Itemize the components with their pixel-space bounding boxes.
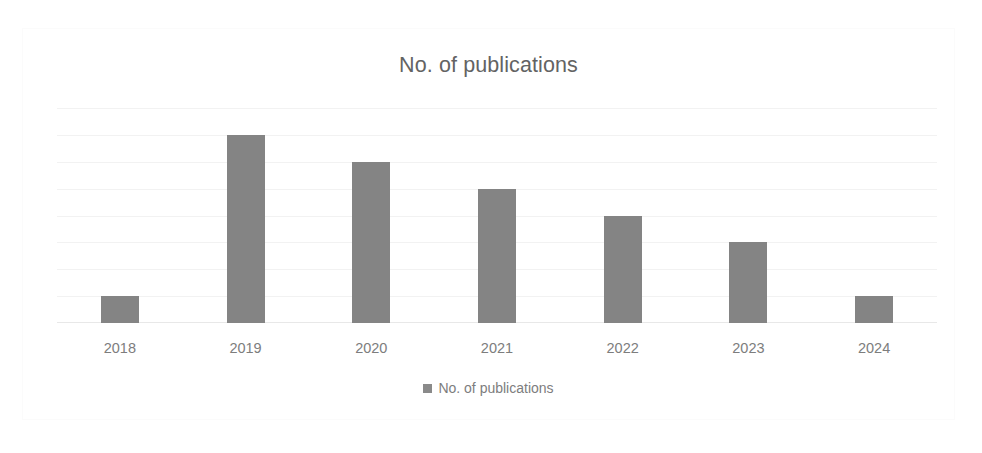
x-axis-tick-slot: 2021 [434,323,560,353]
x-axis-tick-label: 2023 [732,340,764,356]
bar-slot [686,108,812,323]
bar[interactable] [101,296,139,323]
bar-slot [434,108,560,323]
plot-area: 012345678 [57,108,937,323]
x-axis-tick-label: 2018 [104,340,136,356]
bar[interactable] [227,135,265,323]
x-axis-tick-label: 2021 [481,340,513,356]
bar-slot [57,108,183,323]
x-axis-tick-label: 2024 [858,340,890,356]
bar[interactable] [604,216,642,324]
chart-legend: No. of publications [23,380,954,396]
chart-title: No. of publications [23,53,954,78]
x-axis-tick-slot: 2020 [308,323,434,353]
legend-square-marker [423,384,432,393]
x-axis: 2018201920202021202220232024 [57,323,937,353]
bar-slot [811,108,937,323]
bar-slot [560,108,686,323]
x-axis-tick-slot: 2024 [811,323,937,353]
bar[interactable] [478,189,516,323]
x-axis-tick-label: 2022 [607,340,639,356]
bar-series [57,108,937,323]
bar[interactable] [352,162,390,323]
x-axis-tick-slot: 2022 [560,323,686,353]
x-axis-tick-slot: 2019 [183,323,309,353]
bar-slot [308,108,434,323]
x-axis-tick-label: 2019 [229,340,261,356]
legend-label: No. of publications [438,380,553,396]
x-axis-tick-slot: 2023 [686,323,812,353]
chart-container: No. of publications 012345678 2018201920… [22,28,955,420]
x-axis-tick-label: 2020 [355,340,387,356]
x-axis-tick-slot: 2018 [57,323,183,353]
bar[interactable] [729,242,767,323]
bar[interactable] [855,296,893,323]
bar-slot [183,108,309,323]
